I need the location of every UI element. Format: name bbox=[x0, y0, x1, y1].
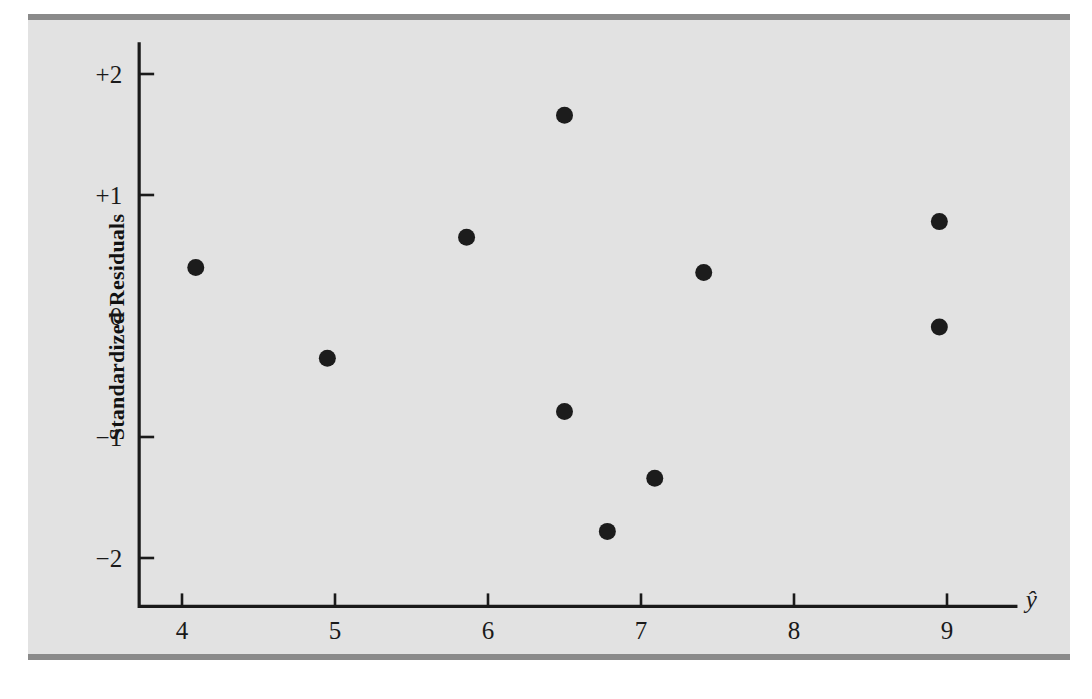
y-tick-label: 0 bbox=[110, 303, 123, 330]
x-tick-label: 6 bbox=[482, 617, 495, 644]
x-tick-label: 4 bbox=[176, 617, 189, 644]
x-axis-title: ŷ bbox=[1023, 586, 1038, 613]
x-tick-label: 7 bbox=[635, 617, 648, 644]
data-points bbox=[187, 107, 948, 540]
data-point bbox=[695, 264, 712, 281]
tick-marks bbox=[139, 74, 947, 606]
data-point bbox=[556, 403, 573, 420]
data-point bbox=[931, 213, 948, 230]
data-point bbox=[931, 318, 948, 335]
data-point bbox=[319, 350, 336, 367]
data-point bbox=[187, 259, 204, 276]
y-tick-label: +1 bbox=[96, 182, 123, 209]
data-point bbox=[458, 229, 475, 246]
x-axis-title-label: ŷ bbox=[1023, 586, 1038, 613]
data-point bbox=[599, 523, 616, 540]
x-tick-label: 8 bbox=[788, 617, 801, 644]
x-tick-label: 5 bbox=[329, 617, 342, 644]
y-tick-label: +2 bbox=[96, 61, 123, 88]
tick-labels: 456789+2+10−1−2 bbox=[96, 61, 954, 644]
data-point bbox=[646, 470, 663, 487]
y-tick-label: −2 bbox=[96, 545, 123, 572]
y-tick-label: −1 bbox=[96, 424, 123, 451]
data-point bbox=[556, 107, 573, 124]
x-tick-label: 9 bbox=[941, 617, 954, 644]
scatter-plot: 456789+2+10−1−2 ŷ bbox=[0, 0, 1092, 699]
residual-plot-figure: Standardized Residuals 456789+2+10−1−2 ŷ bbox=[0, 0, 1092, 699]
axes bbox=[139, 44, 1016, 607]
